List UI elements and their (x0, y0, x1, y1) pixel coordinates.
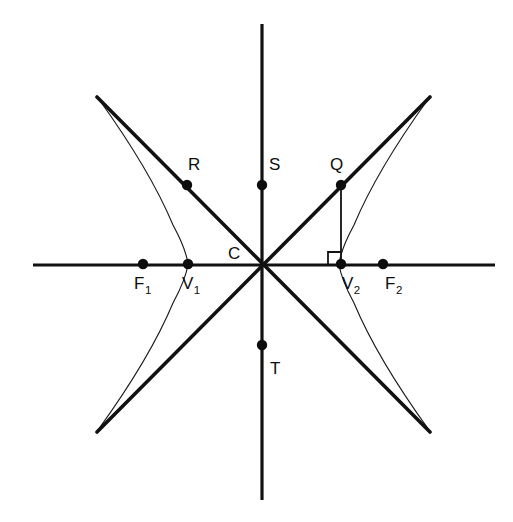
labeled-point-t: T (257, 340, 281, 378)
hyperbola-diagram: Hyperbola with foci, vertices, center an… (0, 0, 513, 522)
labeled-point-c: C (228, 244, 240, 263)
labeled-point-r: R (182, 155, 200, 190)
labeled-point-s: S (257, 155, 281, 190)
point-label-subscript-v2: 2 (354, 284, 360, 296)
hyperbola-figure: Hyperbola with foci, vertices, center an… (0, 0, 513, 522)
point-label-q: Q (330, 155, 343, 174)
point-dot-f1 (138, 259, 148, 269)
point-label-f1: F1 (134, 274, 151, 296)
point-dot-q (336, 180, 346, 190)
point-label-v1: V1 (182, 274, 200, 296)
point-label-subscript-f2: 2 (396, 284, 402, 296)
point-label-v2: V2 (342, 274, 360, 296)
point-label-subscript-v1: 1 (194, 284, 200, 296)
point-label-c: C (228, 244, 240, 263)
point-dot-f2 (378, 259, 388, 269)
point-label-t: T (270, 359, 280, 378)
point-dot-r (182, 180, 192, 190)
point-dot-v2 (336, 259, 346, 269)
labeled-point-q: Q (330, 155, 346, 190)
point-dot-t (257, 340, 267, 350)
point-label-f2: F2 (385, 274, 402, 296)
point-dot-s (257, 180, 267, 190)
point-label-subscript-f1: 1 (145, 284, 151, 296)
point-label-s: S (269, 155, 280, 174)
point-label-r: R (188, 155, 200, 174)
point-dot-v1 (183, 259, 193, 269)
